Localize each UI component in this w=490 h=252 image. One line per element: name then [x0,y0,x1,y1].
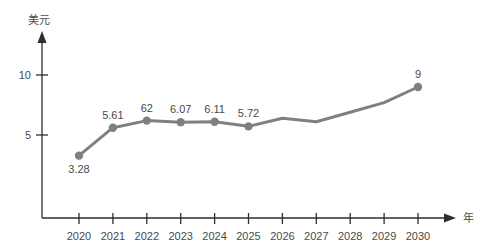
x-tick-label: 2023 [168,230,192,242]
x-tick-label: 2022 [135,230,159,242]
data-point-marker [177,118,185,126]
x-axis-arrowhead [444,214,456,223]
y-axis-arrowhead [38,31,47,43]
data-point-label: 6.07 [170,103,191,115]
x-tick-label: 2030 [406,230,430,242]
data-point-marker [244,122,252,130]
y-axis-ticks: 510 [19,69,48,141]
x-tick-label: 2020 [67,230,91,242]
y-axis-title: 美元 [28,14,50,26]
chart-canvas: 510 202020212022202320242025202620272028… [0,0,490,252]
data-point-marker [75,151,83,159]
data-point-marker [414,83,422,91]
data-point-label: 3.28 [68,163,89,175]
x-tick-label: 2024 [202,230,226,242]
data-series: 3.285.61626.076.115.729 [68,68,422,175]
data-point-label: 5.72 [238,107,259,119]
series-value-labels: 3.285.61626.076.115.729 [68,68,421,175]
data-point-label: 5.61 [102,109,123,121]
y-tick-label: 5 [25,129,31,141]
line-chart: 510 202020212022202320242025202620272028… [0,0,490,252]
data-point-label: 9 [415,68,421,80]
x-tick-label: 2026 [270,230,294,242]
x-tick-label: 2021 [101,230,125,242]
x-tick-label: 2025 [236,230,260,242]
x-axis-title: 年 [463,211,474,224]
data-point-label: 62 [141,102,153,114]
data-point-marker [210,117,218,125]
series-line-path [79,87,418,156]
x-tick-label: 2027 [304,230,328,242]
data-point-marker [109,123,117,131]
data-point-marker [143,116,151,124]
series-markers [75,83,422,160]
data-point-label: 6.11 [204,103,225,115]
x-axis: 2020202120222023202420252026202720282029… [42,213,456,242]
y-axis: 510 [19,31,48,218]
y-tick-label: 10 [19,69,31,81]
x-tick-label: 2028 [338,230,362,242]
x-tick-label: 2029 [372,230,396,242]
